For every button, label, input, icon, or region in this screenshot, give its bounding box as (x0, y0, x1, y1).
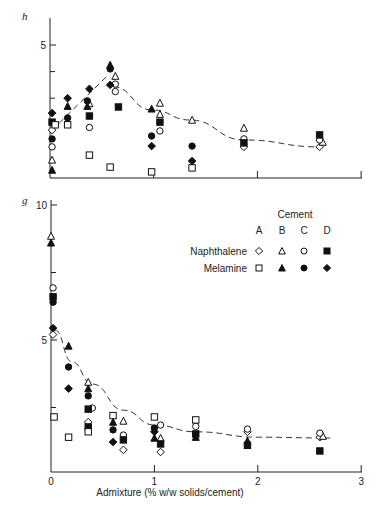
fit-curves-top (52, 76, 320, 147)
open-triangle-marker (157, 434, 164, 441)
open-square-marker (65, 434, 71, 440)
open-circle-marker (317, 430, 323, 436)
filled-diamond-marker (86, 85, 94, 93)
panel-label-h: h (22, 10, 28, 22)
fit-curve (113, 87, 319, 147)
filled-square-marker (86, 113, 92, 119)
open-triangle-marker (156, 99, 163, 106)
open-circle-marker (301, 248, 307, 254)
filled-circle-marker (49, 136, 55, 142)
open-diamond-marker (255, 247, 262, 254)
filled-square-marker (317, 448, 323, 454)
fit-curve (52, 76, 107, 130)
open-circle-marker (50, 285, 56, 291)
filled-square-marker (120, 437, 126, 443)
filled-triangle-marker (244, 437, 251, 444)
filled-circle-marker (85, 393, 91, 399)
filled-triangle-marker (110, 418, 117, 425)
legend-column-D: D (323, 225, 330, 236)
filled-diamond-marker (48, 109, 56, 117)
filled-diamond-marker (65, 385, 73, 393)
open-square-marker (148, 169, 154, 175)
open-diamond-marker (157, 448, 165, 456)
filled-square-marker (157, 119, 163, 125)
filled-triangle-marker (65, 342, 72, 349)
filled-circle-marker (148, 133, 154, 139)
open-square-marker (51, 414, 57, 420)
x-tick-label: 2 (255, 476, 261, 487)
open-circle-marker (86, 124, 92, 130)
x-axis-title: Admixture (% w/w solids/cement) (96, 487, 243, 498)
open-circle-marker (193, 423, 199, 429)
open-square-marker (52, 122, 58, 128)
open-square-marker (193, 417, 199, 423)
open-square-marker (107, 164, 113, 170)
filled-square-marker (85, 406, 91, 412)
x-tick-label: 0 (48, 476, 54, 487)
legend-column-C: C (300, 225, 307, 236)
open-circle-marker (244, 426, 250, 432)
figure: h 5 g 0123510 Admixture (% w/w solids/ce… (0, 0, 386, 510)
legend-column-B: B (279, 225, 286, 236)
open-triangle-marker (120, 417, 127, 424)
filled-square-marker (324, 248, 330, 254)
filled-circle-marker (50, 299, 56, 305)
filled-triangle-marker (148, 105, 155, 112)
filled-circle-marker (84, 98, 90, 104)
open-diamond-marker (120, 446, 128, 454)
filled-circle-marker (64, 115, 70, 121)
legend-body: ABCDNaphthaleneMelamine (190, 225, 330, 274)
filled-diamond-marker (49, 324, 57, 332)
filled-circle-marker (65, 364, 71, 370)
open-triangle-marker (279, 248, 286, 255)
open-triangle-marker (112, 72, 119, 79)
y-tick-label: 5 (40, 40, 46, 51)
filled-triangle-marker (279, 265, 286, 272)
filled-triangle-marker (48, 239, 55, 246)
open-square-marker (189, 165, 195, 171)
data-points-bottom (48, 232, 327, 456)
filled-diamond-marker (148, 142, 156, 150)
panel-h: h 5 (22, 10, 362, 178)
filled-square-marker (316, 132, 322, 138)
open-circle-marker (49, 144, 55, 150)
open-triangle-marker (156, 110, 163, 117)
open-circle-marker (157, 422, 163, 428)
open-square-marker (86, 152, 92, 158)
legend-row-label: Naphthalene (190, 246, 247, 257)
legend: Cement ABCDNaphthaleneMelamine (190, 209, 330, 274)
open-square-marker (256, 265, 262, 271)
y-tick-label: 10 (36, 200, 48, 211)
panel-g: g 0123510 Admixture (% w/w solids/cement… (22, 194, 364, 498)
filled-circle-marker (107, 66, 113, 72)
filled-triangle-marker (64, 102, 71, 109)
y-tick-label: 5 (41, 335, 47, 346)
filled-circle-marker (301, 265, 307, 271)
filled-diamond-marker (188, 157, 196, 165)
open-square-marker (85, 429, 91, 435)
open-square-marker (151, 414, 157, 420)
panel-label-g: g (22, 194, 28, 206)
filled-diamond-marker (64, 94, 72, 102)
filled-triangle-marker (85, 385, 92, 392)
filled-square-marker (241, 140, 247, 146)
legend-row-label: Melamine (204, 263, 248, 274)
x-tick-label: 3 (358, 476, 364, 487)
x-tick-label: 1 (152, 476, 158, 487)
open-triangle-marker (240, 124, 247, 131)
ticks-bottom: 0123510 (36, 200, 365, 487)
filled-diamond-marker (109, 438, 117, 446)
legend-title: Cement (277, 209, 312, 220)
data-points-top (48, 61, 326, 175)
filled-circle-marker (189, 143, 195, 149)
open-circle-marker (157, 128, 163, 134)
filled-square-marker (115, 104, 121, 110)
filled-diamond-marker (323, 264, 330, 271)
open-circle-marker (112, 88, 118, 94)
filled-circle-marker (110, 427, 116, 433)
legend-column-A: A (256, 225, 263, 236)
open-square-marker (64, 122, 70, 128)
